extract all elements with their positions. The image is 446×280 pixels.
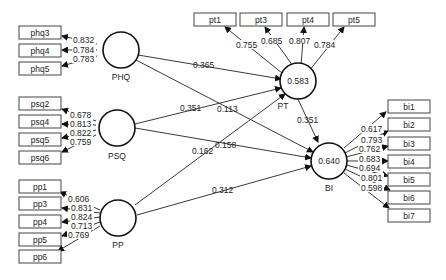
construct-phq: PHQ — [103, 32, 139, 82]
svg-text:0.617: 0.617 — [361, 124, 383, 134]
svg-text:0.832: 0.832 — [73, 35, 95, 45]
bi-r-squared: 0.640 — [318, 156, 340, 166]
svg-text:bi1: bi1 — [403, 102, 415, 112]
svg-text:pt4: pt4 — [302, 15, 314, 25]
svg-text:pp4: pp4 — [33, 217, 47, 227]
svg-text:pp5: pp5 — [33, 235, 47, 245]
svg-text:0.801: 0.801 — [361, 173, 383, 183]
coef-phq-pt: 0.365 — [193, 60, 215, 70]
sem-path-diagram: 0.365 0.113 0.351 0.158 0.162 0.312 0.35… — [0, 0, 446, 280]
svg-text:PP: PP — [112, 240, 124, 250]
svg-text:psq5: psq5 — [31, 135, 50, 145]
construct-bi: 0.640 BI — [311, 143, 347, 193]
coef-pp-pt: 0.162 — [192, 146, 214, 156]
svg-text:bi7: bi7 — [403, 211, 415, 221]
svg-text:pp3: pp3 — [33, 199, 47, 209]
path-psq-pt — [135, 88, 281, 124]
phq-indicators: phq3 phq4 phq5 0.832 0.784 0.783 — [19, 26, 97, 75]
construct-psq: PSQ — [99, 110, 135, 161]
coef-phq-bi: 0.113 — [217, 104, 238, 114]
construct-pt: 0.583 PT — [278, 63, 316, 111]
svg-text:BI: BI — [325, 183, 333, 193]
psq-indicators: psq2 psq4 psq5 psq6 0.678 0.813 0.822 0.… — [19, 97, 96, 164]
svg-text:0.762: 0.762 — [359, 144, 381, 154]
construct-pp: PP — [100, 200, 136, 250]
bi-indicators: bi1 bi2 bi3 bi4 bi5 bi6 bi7 0.617 0.793 … — [344, 100, 430, 222]
svg-text:0.694: 0.694 — [359, 163, 381, 173]
pt-r-squared: 0.583 — [287, 76, 309, 86]
svg-text:phq3: phq3 — [31, 28, 50, 38]
svg-text:0.784: 0.784 — [314, 40, 336, 50]
svg-text:psq2: psq2 — [31, 99, 50, 109]
svg-text:pp6: pp6 — [33, 252, 47, 262]
svg-text:0.685: 0.685 — [261, 36, 283, 46]
svg-text:bi6: bi6 — [403, 193, 415, 203]
svg-text:pt5: pt5 — [348, 15, 360, 25]
coef-psq-bi: 0.158 — [215, 140, 237, 150]
svg-text:bi5: bi5 — [403, 175, 415, 185]
pp-indicators: pp1 pp3 pp4 pp5 pp6 0.606 0.831 0.824 0.… — [19, 180, 100, 263]
svg-text:pt3: pt3 — [255, 15, 267, 25]
svg-text:0.598: 0.598 — [361, 183, 383, 193]
svg-text:0.783: 0.783 — [73, 54, 95, 64]
svg-text:pt1: pt1 — [209, 15, 221, 25]
pt-indicators: pt1 pt3 pt4 pt5 0.755 0.685 0.807 0.784 — [194, 13, 375, 73]
svg-text:0.807: 0.807 — [289, 36, 311, 46]
svg-text:PHQ: PHQ — [112, 72, 131, 82]
svg-text:bi4: bi4 — [403, 157, 415, 167]
coef-pp-bi: 0.312 — [212, 185, 234, 195]
coef-psq-pt: 0.351 — [180, 103, 202, 113]
svg-text:bi3: bi3 — [403, 139, 415, 149]
svg-text:psq6: psq6 — [31, 153, 50, 163]
svg-text:PSQ: PSQ — [108, 151, 126, 161]
svg-text:0.769: 0.769 — [68, 230, 90, 240]
svg-text:bi2: bi2 — [403, 120, 415, 130]
svg-text:PT: PT — [278, 101, 289, 111]
svg-text:phq5: phq5 — [31, 64, 50, 74]
svg-text:pp1: pp1 — [33, 182, 47, 192]
coef-pt-bi: 0.351 — [297, 115, 319, 125]
svg-text:phq4: phq4 — [31, 46, 50, 56]
svg-text:0.759: 0.759 — [70, 137, 92, 147]
svg-text:psq4: psq4 — [31, 117, 50, 127]
svg-text:0.755: 0.755 — [236, 40, 258, 50]
